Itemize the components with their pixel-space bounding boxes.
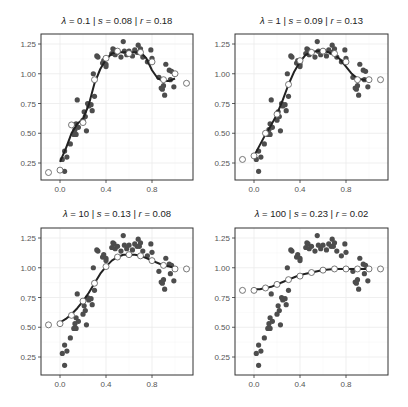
observed-point	[312, 248, 317, 253]
observed-point	[171, 278, 176, 283]
y-tick-label: 0.50	[20, 129, 36, 138]
observed-point	[355, 277, 360, 282]
observed-point	[363, 69, 368, 74]
observed-point	[74, 132, 79, 137]
y-tick-label: 0.50	[214, 129, 230, 138]
fitted-point	[240, 287, 246, 293]
observed-point	[90, 108, 95, 113]
x-tick-label: 0.8	[146, 185, 158, 194]
observed-point	[64, 154, 69, 159]
fitted-point	[297, 273, 303, 279]
observed-point	[95, 54, 100, 59]
fitted-point	[57, 167, 63, 173]
fitted-point	[378, 77, 384, 83]
panel-title: λ = 0.1 | s = 0.08 | r = 0.18	[61, 15, 173, 26]
y-tick-label: 1.25	[20, 40, 36, 49]
observed-point	[90, 302, 95, 307]
fitted-point	[366, 266, 372, 272]
y-tick-label: 0.50	[214, 323, 230, 332]
observed-point	[262, 335, 267, 340]
observed-point	[254, 351, 259, 356]
x-tick-label: 0.4	[294, 185, 306, 194]
observed-point	[286, 94, 291, 99]
observed-point	[148, 47, 153, 52]
fitted-point	[138, 49, 144, 55]
observed-point	[342, 47, 347, 52]
fitted-point	[251, 287, 257, 293]
panel-title: λ = 1 | s = 0.09 | r = 0.13	[259, 15, 363, 26]
observed-point	[268, 326, 273, 331]
observed-point	[103, 258, 108, 263]
y-tick-label: 1.00	[20, 264, 36, 273]
observed-point	[356, 93, 361, 98]
observed-point	[163, 62, 168, 67]
observed-point	[95, 248, 100, 253]
x-tick-label: 0.0	[248, 185, 260, 194]
y-tick-label: 0.25	[20, 353, 36, 362]
x-tick-label: 0.0	[248, 380, 260, 389]
fitted-point	[366, 77, 372, 83]
panel-3: 0.00.40.80.250.500.751.001.25λ = 10 | s …	[20, 208, 193, 389]
x-tick-label: 0.8	[146, 380, 158, 389]
observed-point	[357, 62, 362, 67]
fitted-point	[332, 51, 338, 57]
observed-point	[156, 269, 161, 274]
fitted-point	[115, 254, 121, 260]
fitted-point	[251, 153, 257, 159]
observed-point	[258, 348, 263, 353]
x-tick-label: 0.8	[340, 380, 352, 389]
observed-point	[60, 351, 65, 356]
observed-point	[324, 247, 329, 252]
observed-point	[309, 244, 314, 249]
y-tick-label: 1.25	[214, 234, 230, 243]
observed-point	[138, 240, 143, 245]
fitted-point	[309, 270, 315, 276]
observed-point	[278, 128, 283, 133]
fitted-point	[320, 48, 326, 54]
fitted-point	[46, 322, 52, 328]
observed-point	[270, 319, 275, 324]
observed-point	[284, 302, 289, 307]
panel-title: λ = 100 | s = 0.23 | r = 0.02	[254, 208, 368, 219]
fitted-point	[103, 55, 109, 61]
observed-point	[76, 319, 81, 324]
observed-point	[269, 291, 274, 296]
fitted-point	[286, 277, 292, 283]
fitted-point	[80, 120, 86, 126]
observed-point	[365, 278, 370, 283]
fitted-point	[172, 71, 178, 77]
fitted-point	[126, 51, 132, 57]
x-tick-label: 0.4	[294, 380, 306, 389]
fitted-point	[343, 59, 349, 65]
fitted-point	[355, 266, 361, 272]
observed-point	[121, 39, 126, 44]
fitted-point	[240, 156, 246, 162]
observed-point	[258, 154, 263, 159]
observed-point	[339, 253, 344, 258]
observed-point	[171, 84, 176, 89]
x-tick-label: 0.8	[340, 185, 352, 194]
fitted-point	[103, 264, 109, 270]
panel-4: 0.00.40.80.250.500.751.001.25λ = 100 | s…	[214, 208, 388, 389]
observed-point	[62, 343, 67, 348]
y-tick-label: 1.00	[214, 70, 230, 79]
observed-point	[262, 141, 267, 146]
observed-point	[163, 256, 168, 261]
observed-point	[162, 93, 167, 98]
fitted-point	[320, 267, 326, 273]
y-tick-label: 0.75	[20, 100, 36, 109]
observed-point	[149, 250, 154, 255]
observed-point	[356, 287, 361, 292]
observed-point	[148, 241, 153, 246]
observed-point	[162, 287, 167, 292]
observed-point	[92, 94, 97, 99]
observed-point	[362, 271, 367, 276]
fitted-point	[297, 58, 303, 64]
observed-point	[161, 83, 166, 88]
observed-point	[285, 265, 290, 270]
y-tick-label: 0.75	[20, 294, 36, 303]
fitted-point	[378, 266, 384, 272]
observed-point	[74, 326, 79, 331]
fitted-point	[69, 312, 75, 318]
y-tick-label: 0.25	[20, 159, 36, 168]
